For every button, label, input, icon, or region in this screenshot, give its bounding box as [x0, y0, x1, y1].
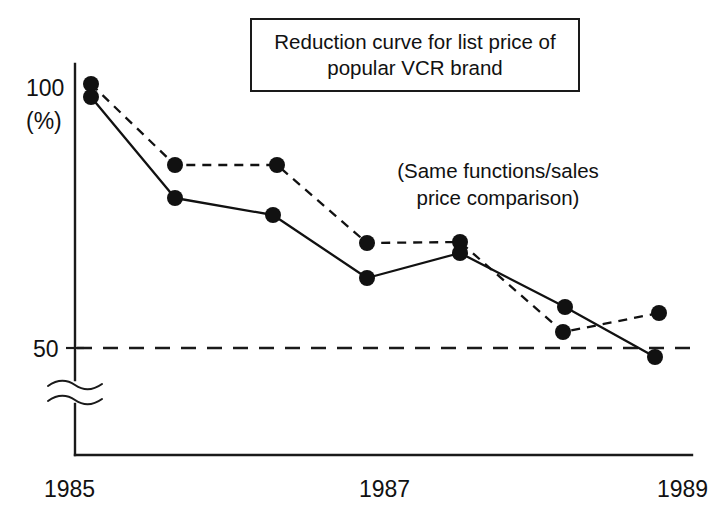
data-point	[557, 299, 573, 315]
y-axis-tick-label-100: 100	[26, 75, 64, 101]
data-point	[167, 190, 183, 206]
data-point	[555, 324, 571, 340]
data-point	[647, 349, 663, 365]
data-point	[167, 157, 183, 173]
data-point	[265, 207, 281, 223]
x-axis-tick-label-1989: 1989	[657, 476, 708, 502]
y-axis-unit-label: (%)	[26, 108, 62, 134]
data-point	[83, 89, 99, 105]
chart-title-box: Reduction curve for list price of popula…	[250, 18, 580, 92]
data-point	[359, 235, 375, 251]
series-solid-line	[91, 97, 655, 357]
chart-annotation-line-2: price comparison)	[378, 185, 618, 212]
y-axis-tick-label-50: 50	[33, 336, 59, 362]
data-point	[452, 245, 468, 261]
x-axis-tick-label-1987: 1987	[359, 476, 410, 502]
chart-title-line-1: Reduction curve for list price of	[274, 29, 555, 55]
chart-annotation: (Same functions/sales price comparison)	[378, 158, 618, 211]
data-point	[651, 305, 667, 321]
data-point	[359, 270, 375, 286]
chart-title-line-2: popular VCR brand	[327, 55, 503, 81]
data-point	[269, 157, 285, 173]
x-axis-tick-label-1985: 1985	[44, 476, 95, 502]
axis-break-wave-upper	[48, 381, 102, 390]
chart-container: 100 (%) 50 1985 1987 1989 Reduction curv…	[0, 0, 726, 512]
chart-annotation-line-1: (Same functions/sales	[378, 158, 618, 185]
